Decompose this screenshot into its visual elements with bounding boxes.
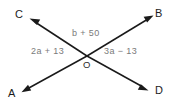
angle-expression-top: b + 50 [72, 29, 100, 38]
intersecting-lines-svg [0, 0, 176, 108]
endpoint-label-c: C [15, 9, 23, 20]
endpoint-label-a: A [8, 88, 15, 99]
ray-OD-segment [87, 56, 143, 87]
endpoint-label-d: D [155, 85, 163, 96]
angle-expression-left: 2a + 13 [31, 47, 64, 56]
arrowhead-A [22, 85, 32, 92]
ray-OA-segment [27, 56, 87, 89]
endpoint-label-b: B [155, 8, 162, 19]
vertex-label-o: O [83, 60, 90, 70]
angle-expression-right: 3a − 13 [104, 47, 137, 56]
geometry-diagram: C B A D O b + 50 2a + 13 3a − 13 [0, 0, 176, 108]
